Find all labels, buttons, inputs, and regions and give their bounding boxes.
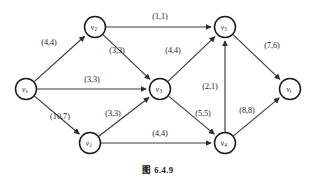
node-subscript-v1: 1 xyxy=(89,142,92,148)
figure-caption: 图 6.4.9 xyxy=(142,165,173,175)
node-subscript-v3: 3 xyxy=(159,88,162,94)
edge-label-v2-v5: (1,1) xyxy=(152,12,168,21)
edge-v3-v5 xyxy=(168,37,215,82)
node-subscript-v5: 5 xyxy=(224,26,227,32)
edge-label-v1-v4: (4,4) xyxy=(152,129,168,138)
edge-label-vs-v1: (10,7) xyxy=(50,112,70,121)
node-subscript-v4: 4 xyxy=(224,142,227,148)
edge-v4-vt xyxy=(234,98,280,136)
edge-label-v5-vt: (7,6) xyxy=(264,41,280,50)
node-v2[interactable]: v2 xyxy=(85,17,106,38)
edge-label-v2-v3: (3,3) xyxy=(109,46,125,55)
node-v3[interactable]: v3 xyxy=(150,79,171,100)
edge-label-v3-v5: (4,4) xyxy=(165,46,181,55)
node-v1[interactable]: v1 xyxy=(80,133,101,154)
edge-labels-layer: (4,4)(3,3)(10,7)(1,1)(3,3)(3,3)(4,4)(4,4… xyxy=(41,12,280,138)
node-v5[interactable]: v5 xyxy=(215,17,236,38)
edge-v2-v3 xyxy=(103,35,150,80)
node-vs[interactable]: vs xyxy=(16,79,37,100)
network-flow-graph: vsv2v3v1v5v4vt (4,4)(3,3)(10,7)(1,1)(3,3… xyxy=(0,0,316,182)
edge-label-v4-v5: (2,1) xyxy=(202,82,218,91)
node-vt[interactable]: vt xyxy=(280,79,301,100)
edge-label-v4-vt: (8,8) xyxy=(239,106,255,115)
node-subscript-vs: s xyxy=(26,88,28,94)
edge-label-v3-v4: (5,5) xyxy=(195,109,211,118)
node-v4[interactable]: v4 xyxy=(215,133,236,154)
edge-label-v1-v3: (3,3) xyxy=(105,109,121,118)
edge-label-vs-v2: (4,4) xyxy=(41,38,57,47)
figure-container: vsv2v3v1v5v4vt (4,4)(3,3)(10,7)(1,1)(3,3… xyxy=(0,0,316,182)
node-subscript-v2: 2 xyxy=(94,26,97,32)
edge-label-vs-v3: (3,3) xyxy=(84,75,100,84)
